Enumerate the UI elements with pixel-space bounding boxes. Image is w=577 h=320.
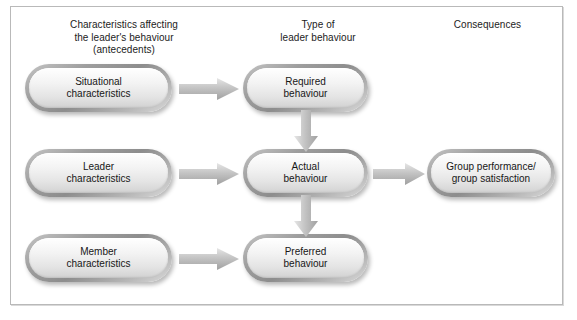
node-actual-behaviour-label: Actual behaviour (284, 161, 328, 186)
column-heading-consequences: Consequences (415, 19, 560, 32)
column-heading-leader-behaviour: Type of leader behaviour (233, 19, 403, 44)
node-actual-behaviour-body: Actual behaviour (247, 153, 364, 193)
node-leader-characteristics: Leader characteristics (25, 149, 172, 197)
node-member-characteristics-body: Member characteristics (29, 238, 168, 278)
node-required-behaviour-label: Required behaviour (284, 76, 328, 101)
node-situational-characteristics-label: Situational characteristics (67, 76, 131, 101)
arrow-right-icon-leader-to-actual (179, 163, 239, 185)
node-member-characteristics: Member characteristics (25, 234, 172, 282)
node-required-behaviour-body: Required behaviour (247, 68, 364, 108)
arrow-down-icon-required-to-actual (294, 110, 318, 152)
arrow-down-icon-actual-to-preferred (294, 195, 318, 237)
node-situational-characteristics-body: Situational characteristics (29, 68, 168, 108)
node-group-performance-label: Group performance/ group satisfaction (446, 161, 536, 186)
node-actual-behaviour: Actual behaviour (243, 149, 368, 197)
node-member-characteristics-label: Member characteristics (67, 246, 131, 271)
node-preferred-behaviour: Preferred behaviour (243, 234, 368, 282)
arrow-right-icon-situational-to-required (179, 78, 239, 100)
diagram-frame: Characteristics affecting the leader's b… (10, 6, 563, 305)
node-preferred-behaviour-label: Preferred behaviour (284, 246, 328, 271)
node-required-behaviour: Required behaviour (243, 64, 368, 112)
node-leader-characteristics-body: Leader characteristics (29, 153, 168, 193)
column-heading-antecedents: Characteristics affecting the leader's b… (29, 19, 219, 57)
node-group-performance: Group performance/ group satisfaction (427, 149, 555, 197)
node-leader-characteristics-label: Leader characteristics (67, 161, 131, 186)
arrow-right-icon-member-to-preferred (179, 248, 239, 270)
arrow-right-icon-actual-to-group (373, 163, 425, 185)
node-preferred-behaviour-body: Preferred behaviour (247, 238, 364, 278)
node-situational-characteristics: Situational characteristics (25, 64, 172, 112)
node-group-performance-body: Group performance/ group satisfaction (431, 153, 551, 193)
